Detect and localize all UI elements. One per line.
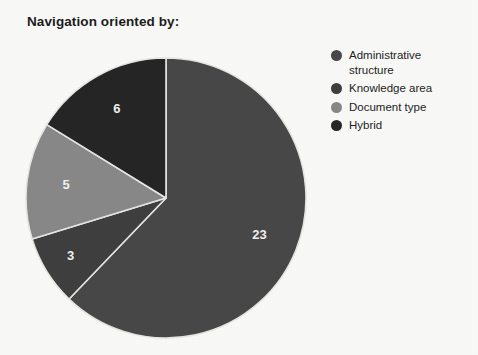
legend-swatch-icon (331, 102, 342, 113)
legend-swatch-icon (331, 120, 342, 131)
legend-item-hybrid[interactable]: Hybrid (331, 118, 476, 133)
pie-chart-svg: 23 3 5 6 (0, 0, 340, 355)
legend-item-label: Document type (349, 100, 426, 115)
legend-item-label: Knowledge area (349, 81, 432, 96)
legend-swatch-icon (331, 83, 342, 94)
pie-label-administrative-structure: 23 (252, 227, 266, 242)
pie-chart: 23 3 5 6 (0, 0, 340, 355)
legend-item-knowledge-area[interactable]: Knowledge area (331, 81, 476, 96)
legend-item-label: Administrative structure (349, 48, 467, 77)
chart-page: Navigation oriented by: 23 3 5 6 (0, 0, 478, 355)
legend-swatch-icon (331, 50, 342, 61)
pie-label-document-type: 5 (62, 177, 69, 192)
legend-item-label: Hybrid (349, 118, 382, 133)
legend-item-administrative-structure[interactable]: Administrative structure (331, 48, 476, 77)
chart-legend: Administrative structure Knowledge area … (331, 48, 476, 137)
legend-item-document-type[interactable]: Document type (331, 100, 476, 115)
pie-label-hybrid: 6 (113, 101, 120, 116)
pie-label-knowledge-area: 3 (67, 248, 74, 263)
pie-slices-group (26, 58, 306, 338)
